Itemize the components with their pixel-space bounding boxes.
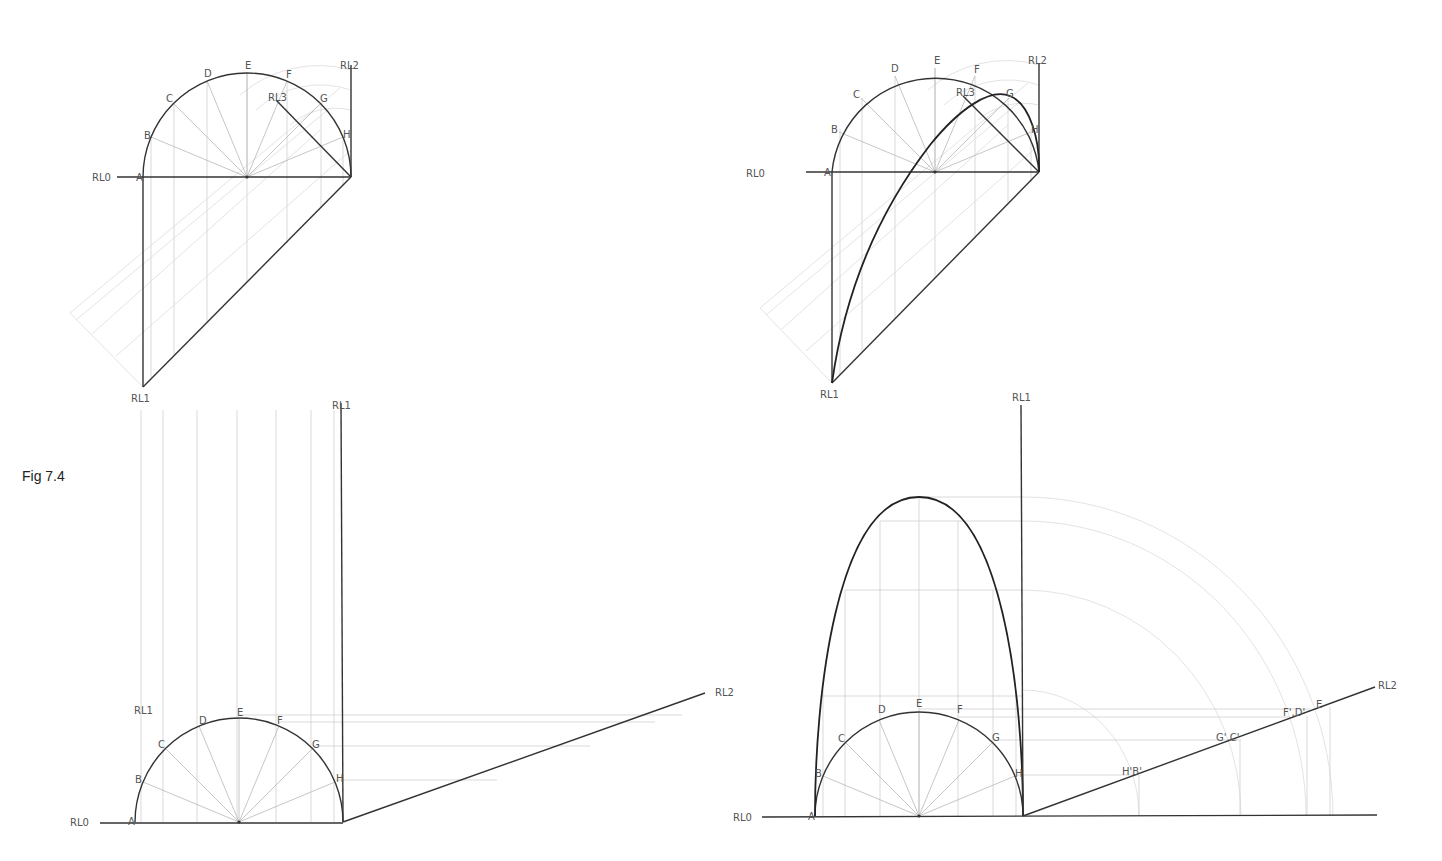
label-point-d: D bbox=[878, 704, 886, 715]
label-e-prime: E bbox=[1316, 699, 1322, 710]
label-point-e: E bbox=[934, 55, 940, 66]
label-point-b: B bbox=[135, 774, 142, 785]
rl0-line bbox=[762, 815, 1377, 817]
label-point-h: H bbox=[336, 773, 344, 784]
panel-bottom-left: RL0 A B C D E F G H RL1 RL1 RL2 bbox=[70, 400, 734, 828]
label-rl0: RL0 bbox=[70, 817, 89, 828]
label-point-e: E bbox=[916, 698, 922, 709]
vertical-projectors bbox=[840, 68, 1031, 374]
label-point-f: F bbox=[957, 704, 963, 715]
label-rl1: RL1 bbox=[820, 389, 839, 400]
label-point-a: A bbox=[136, 172, 143, 183]
label-point-b: B bbox=[815, 768, 822, 779]
label-point-g: G bbox=[320, 93, 328, 104]
center-point bbox=[933, 170, 936, 173]
center-point bbox=[245, 175, 248, 178]
rl2-line bbox=[343, 693, 705, 822]
label-point-g: G bbox=[992, 732, 1000, 743]
label-point-d: D bbox=[199, 715, 207, 726]
label-rl1-top: RL1 bbox=[332, 400, 351, 411]
label-rl2: RL2 bbox=[1028, 55, 1047, 66]
label-rl2: RL2 bbox=[715, 687, 734, 698]
label-rl0: RL0 bbox=[92, 172, 111, 183]
label-rl1: RL1 bbox=[1012, 392, 1031, 403]
label-point-g: G bbox=[312, 739, 320, 750]
label-point-a: A bbox=[128, 816, 135, 827]
radial-rays bbox=[143, 718, 335, 822]
label-point-e: E bbox=[237, 707, 243, 718]
label-point-f: F bbox=[974, 64, 980, 75]
label-rl1: RL1 bbox=[131, 393, 150, 404]
label-f-d-prime: F',D' bbox=[1283, 707, 1305, 718]
label-point-c: C bbox=[166, 93, 173, 104]
panel-top-left: RL0 A B C D E F G H RL3 RL2 RL1 bbox=[70, 60, 359, 404]
construction-arc bbox=[928, 61, 1039, 90]
panel-bottom-right: RL0 A B C D E F G H H'B' G',C' F',D' E R… bbox=[733, 392, 1397, 823]
section-plane-line bbox=[832, 172, 1039, 383]
label-rl2: RL2 bbox=[340, 60, 359, 71]
label-point-g: G bbox=[1006, 88, 1014, 99]
label-rl2: RL2 bbox=[1378, 680, 1397, 691]
label-rl1-side: RL1 bbox=[134, 705, 153, 716]
label-point-b: B bbox=[144, 130, 151, 141]
label-point-b: B bbox=[831, 124, 838, 135]
label-rl0: RL0 bbox=[746, 168, 765, 179]
radial-rays bbox=[839, 68, 1031, 172]
label-point-a: A bbox=[824, 167, 831, 178]
vertical-projectors bbox=[141, 410, 334, 822]
drawing-canvas: Fig 7.4 bbox=[0, 0, 1442, 861]
radial-rays bbox=[823, 712, 1015, 816]
swing-arcs bbox=[1023, 497, 1333, 816]
label-point-e: E bbox=[245, 60, 251, 71]
label-g-c-prime: G',C' bbox=[1216, 732, 1239, 743]
label-point-h: H bbox=[1015, 768, 1023, 779]
label-point-f: F bbox=[286, 69, 292, 80]
center-point bbox=[917, 814, 920, 817]
label-point-f: F bbox=[277, 715, 283, 726]
label-point-c: C bbox=[838, 733, 845, 744]
label-point-c: C bbox=[853, 89, 860, 100]
label-point-h: H bbox=[343, 129, 351, 140]
label-point-c: C bbox=[158, 739, 165, 750]
construction-arc bbox=[240, 66, 351, 95]
panel-top-right: RL0 A B C D E F G H RL3 RL2 RL1 bbox=[746, 55, 1047, 400]
label-point-h: H bbox=[1031, 124, 1039, 135]
label-point-d: D bbox=[891, 63, 899, 74]
label-rl0: RL0 bbox=[733, 812, 752, 823]
label-point-d: D bbox=[204, 68, 212, 79]
label-point-a: A bbox=[808, 811, 815, 822]
rl1-line bbox=[341, 403, 343, 822]
figure-caption: Fig 7.4 bbox=[22, 468, 65, 484]
center-point bbox=[237, 820, 240, 823]
diagonal-projectors bbox=[760, 83, 1039, 383]
label-h-b-prime: H'B' bbox=[1122, 766, 1142, 777]
label-rl3: RL3 bbox=[268, 92, 287, 103]
radial-rays bbox=[151, 73, 343, 177]
label-rl3: RL3 bbox=[956, 87, 975, 98]
